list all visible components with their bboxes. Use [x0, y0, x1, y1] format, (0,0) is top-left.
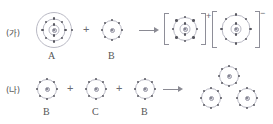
- atom-a: [34, 10, 74, 50]
- nucleus: [94, 87, 99, 92]
- electron: [53, 95, 56, 98]
- electron: [235, 22, 238, 25]
- cation-a: [170, 14, 200, 44]
- electron: [53, 23, 56, 26]
- plus-operator: +: [116, 82, 122, 94]
- row-label-na: (나): [6, 83, 20, 95]
- electron: [196, 28, 199, 31]
- electron: [53, 40, 56, 43]
- cation-charge: +: [206, 11, 211, 21]
- nucleus: [245, 96, 250, 101]
- bracket-left: [212, 11, 217, 48]
- electron: [246, 107, 249, 110]
- electron: [192, 19, 195, 22]
- atom-b-symbol: B: [108, 50, 115, 61]
- electron: [220, 97, 223, 100]
- electron: [41, 29, 44, 32]
- row-label-ga: (가): [6, 26, 20, 38]
- electron: [235, 42, 238, 45]
- nucleus: [234, 27, 239, 32]
- anion-b: [218, 11, 254, 47]
- atom-b-1-symbol: B: [43, 106, 50, 117]
- atom-b-1: [34, 76, 60, 102]
- atom-b-2: [132, 76, 158, 102]
- bracket-left: [164, 13, 169, 45]
- electron: [220, 28, 223, 31]
- electron: [221, 68, 224, 71]
- electron: [235, 33, 238, 36]
- electron: [225, 18, 228, 21]
- electron: [151, 95, 154, 98]
- molecule-atom-right: [234, 85, 260, 111]
- electron: [102, 95, 105, 98]
- electron: [56, 88, 59, 91]
- atom-c-symbol: C: [92, 106, 99, 117]
- electron: [256, 97, 259, 100]
- electron: [53, 34, 56, 37]
- nucleus: [45, 87, 50, 92]
- electron: [238, 75, 241, 78]
- reaction-arrow: [139, 27, 159, 34]
- electron: [210, 107, 213, 110]
- atom-b: [99, 17, 125, 43]
- electron: [121, 29, 124, 32]
- electron: [46, 98, 49, 101]
- nucleus: [209, 96, 214, 101]
- electron: [192, 36, 195, 39]
- electron: [239, 90, 242, 93]
- electron: [235, 13, 238, 16]
- reaction-arrow: [163, 86, 183, 93]
- nucleus: [183, 27, 188, 32]
- electron: [154, 88, 157, 91]
- plus-operator: +: [83, 23, 89, 35]
- plus-operator: +: [67, 82, 73, 94]
- electron: [249, 28, 252, 31]
- electron: [53, 17, 56, 20]
- electron: [105, 88, 108, 91]
- nucleus: [227, 74, 232, 79]
- electron: [184, 40, 187, 43]
- electron: [184, 33, 187, 36]
- electron: [175, 19, 178, 22]
- electron: [253, 104, 256, 107]
- electron: [88, 81, 91, 84]
- atom-a-symbol: A: [48, 50, 55, 61]
- electron: [104, 22, 107, 25]
- nucleus: [52, 28, 57, 33]
- nucleus: [110, 28, 115, 33]
- electron: [95, 98, 98, 101]
- atom-c: [83, 76, 109, 102]
- electron: [184, 22, 187, 25]
- electron: [144, 98, 147, 101]
- molecule-atom-left: [198, 85, 224, 111]
- electron: [228, 85, 231, 88]
- electron: [71, 29, 74, 32]
- electron: [118, 36, 121, 39]
- anion-charge: −: [260, 8, 265, 18]
- electron: [111, 39, 114, 42]
- electron: [39, 81, 42, 84]
- electron: [217, 104, 220, 107]
- electron: [175, 36, 178, 39]
- electron: [137, 81, 140, 84]
- atom-b-2-symbol: B: [141, 106, 148, 117]
- nucleus: [143, 87, 148, 92]
- electron: [64, 29, 67, 32]
- electron: [203, 90, 206, 93]
